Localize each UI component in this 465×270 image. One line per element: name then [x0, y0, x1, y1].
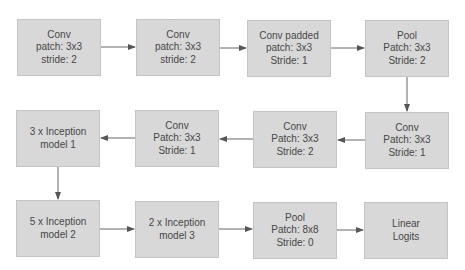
node-label-line: model 1 [40, 139, 76, 152]
node-label-line: Patch: 8x8 [271, 224, 318, 237]
node-label-line: patch: 3x3 [155, 41, 201, 54]
node-label-line: Pool [285, 212, 305, 225]
node-pool-2: Pool Patch: 8x8 Stride: 0 [253, 202, 337, 259]
node-label-line: patch: 3x3 [266, 42, 312, 55]
node-label-line: Stride: 1 [270, 55, 307, 68]
node-conv-padded: Conv padded patch: 3x3 Stride: 1 [247, 20, 331, 77]
node-label-line: Stride: 2 [276, 146, 313, 159]
node-label-line: Conv [47, 29, 70, 42]
node-label-line: Patch: 3x3 [153, 132, 200, 145]
node-conv-1: Conv patch: 3x3 stride: 2 [17, 19, 101, 76]
node-label-line: Conv [283, 121, 306, 134]
node-label-line: Pool [397, 30, 417, 43]
node-label-line: Patch: 3x3 [271, 133, 318, 146]
node-label-line: Conv padded [259, 30, 319, 43]
node-label-line: Stride: 2 [388, 55, 425, 68]
node-label-line: Logits [393, 231, 420, 244]
node-label-line: Conv [166, 29, 189, 42]
node-label-line: Stride: 0 [276, 237, 313, 250]
node-label-line: 5 x Inception [30, 216, 87, 229]
node-pool-1: Pool Patch: 3x3 Stride: 2 [365, 20, 449, 77]
node-label-line: 2 x Inception [149, 217, 206, 230]
node-inception-1: 3 x Inception model 1 [16, 110, 100, 167]
node-label-line: Stride: 1 [158, 145, 195, 158]
node-label-line: Stride: 1 [388, 147, 425, 160]
node-label-line: 3 x Inception [30, 126, 87, 139]
node-conv-2: Conv patch: 3x3 stride: 2 [136, 19, 220, 76]
node-conv-4: Conv Patch: 3x3 Stride: 2 [253, 111, 337, 168]
node-label-line: patch: 3x3 [36, 41, 82, 54]
node-label-line: model 2 [40, 229, 76, 242]
node-inception-2: 5 x Inception model 2 [16, 200, 100, 257]
node-conv-5: Conv Patch: 3x3 Stride: 1 [135, 110, 219, 167]
node-label-line: Linear [392, 218, 420, 231]
node-label-line: stride: 2 [160, 54, 196, 67]
node-label-line: Conv [165, 120, 188, 133]
node-inception-3: 2 x Inception model 3 [135, 201, 219, 258]
node-linear-logits: Linear Logits [364, 202, 448, 259]
node-label-line: Patch: 3x3 [383, 134, 430, 147]
node-conv-3: Conv Patch: 3x3 Stride: 1 [365, 112, 449, 169]
node-label-line: stride: 2 [41, 54, 77, 67]
node-label-line: Conv [395, 122, 418, 135]
node-label-line: Patch: 3x3 [383, 42, 430, 55]
node-label-line: model 3 [159, 230, 195, 243]
